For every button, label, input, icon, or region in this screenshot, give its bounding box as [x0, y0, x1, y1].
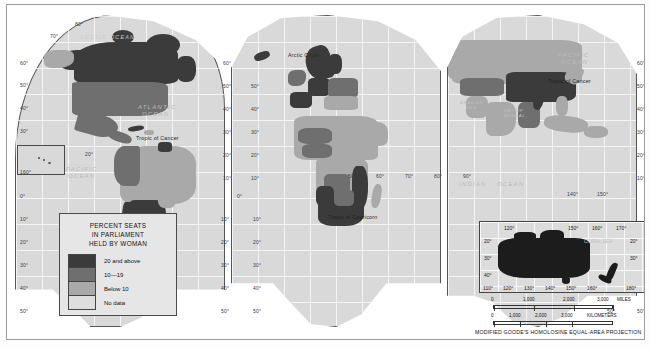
seam-left-40: 40°: [223, 106, 231, 112]
scale-tick-k3: [572, 321, 573, 327]
aus-lon-150b: 150°: [566, 285, 576, 291]
aus-lon-150: 150°: [568, 225, 578, 231]
region-colombia-peru: [114, 146, 140, 186]
region-guyana: [158, 142, 172, 152]
region-alaska: [44, 50, 74, 68]
region-horn-of-africa: [362, 122, 388, 146]
hawaii-island-1: [38, 157, 40, 159]
region-cuba: [128, 125, 145, 132]
seam-s-20: 20°: [221, 239, 229, 245]
scale-tick-k1: [520, 321, 521, 327]
scale-tick-k2: [546, 321, 547, 327]
legend-item-mid[interactable]: 10—19: [68, 268, 168, 282]
region-arnhem-land: [514, 232, 536, 242]
region-zimbabwe: [334, 190, 354, 206]
scale-km-2: 2,000: [535, 313, 547, 318]
label-pacific-ocean-west: PACIFIC: [66, 166, 98, 173]
grat-lon-50: 50°: [348, 173, 356, 179]
grat-left-40b: 40°: [20, 285, 28, 291]
grat-left-30: 30°: [20, 128, 28, 134]
label-tropic-of-cancer-west: Tropic of Cancer: [136, 135, 179, 141]
legend-entries: 20 and above 10—19 Below 10 No data: [68, 254, 168, 310]
grat-top-80: 80°: [75, 21, 83, 27]
region-madagascar: [370, 183, 383, 208]
label-coral-sea: CORAL SEA: [584, 238, 613, 244]
region-united-kingdom: [288, 70, 306, 86]
projection-note: MODIFIED GOODE'S HOMOLOSINE EQUAL-AREA P…: [475, 329, 641, 335]
region-central-asia: [460, 78, 504, 96]
label-atlantic-ocean-2: OCEAN: [142, 111, 169, 118]
label-tropic-of-capricorn: Tropic of Capricorn: [328, 214, 377, 220]
grat-left-40: 40°: [20, 105, 28, 111]
label-pacific-ocean-east-2: OCEAN: [561, 59, 588, 66]
legend-item-high[interactable]: 20 and above: [68, 254, 168, 268]
grat-lon-60: 60°: [376, 173, 384, 179]
region-namibia: [316, 186, 334, 206]
region-uruguay-paraguay: [158, 192, 176, 208]
aus-lon-160b: 160°: [587, 285, 597, 291]
seam-s-30: 30°: [221, 262, 229, 268]
region-finland: [328, 54, 342, 74]
seam-left-60: 60°: [223, 60, 231, 66]
grat-lon-70: 70°: [405, 173, 413, 179]
grat-pac-150: 150°: [597, 191, 608, 197]
grat-right-40: 40°: [637, 106, 644, 112]
region-spain: [290, 92, 312, 108]
seam-s-40: 40°: [221, 285, 229, 291]
region-west-russia: [448, 50, 488, 80]
aus-lat-20: 20°: [484, 238, 492, 244]
grat-left-0: 0°: [20, 193, 25, 199]
seam-right-10: 10°: [251, 175, 259, 181]
scale-bar-miles: [493, 305, 613, 309]
scale-tick-m0: [494, 305, 495, 311]
scale-km-unit: KILOMETERS: [587, 313, 617, 318]
scale-bar-kilometers: [493, 321, 613, 325]
legend-title-line3: HELD BY WOMAN: [68, 239, 168, 248]
scale-km-1: 1,000: [509, 313, 521, 318]
region-eastern-europe: [328, 78, 358, 98]
seam-s2-20: 20°: [253, 239, 261, 245]
aus-lat-30r: 30°: [630, 255, 638, 261]
map-canvas: ARCTIC OCEAN ATLANTIC OCEAN PACIFIC OCEA…: [7, 5, 644, 339]
legend-swatch-nodata: [68, 296, 96, 310]
aus-lon-170: 170°: [616, 225, 626, 231]
label-indian-ocean: INDIAN: [459, 181, 487, 188]
region-tasmania: [562, 278, 570, 284]
region-west-africa: [298, 128, 332, 144]
seam-left-20: 20°: [223, 152, 231, 158]
aus-lat-30: 30°: [484, 255, 492, 261]
hawaii-island-2: [43, 159, 45, 161]
aus-lon-140b: 140°: [545, 285, 555, 291]
legend-item-nodata[interactable]: No data: [68, 296, 168, 310]
legend-title: PERCENT SEATS IN PARLIAMENT HELD BY WOMA…: [68, 221, 168, 248]
label-indian-ocean-2: OCEAN: [497, 181, 524, 188]
seam-right-40: 40°: [251, 106, 259, 112]
label-pacific-ocean-east: PACIFIC: [558, 52, 590, 59]
scale-km-0: 0: [491, 313, 494, 318]
aus-lon-160: 160°: [592, 225, 602, 231]
legend-swatch-low: [68, 282, 96, 296]
seam-s2-40: 40°: [253, 285, 261, 291]
scale-miles-3: 3,000: [597, 297, 609, 302]
grat-lon-80: 80°: [434, 173, 442, 179]
legend-title-line1: PERCENT SEATS: [68, 221, 168, 230]
seam-s2-10: 10°: [253, 216, 261, 222]
grat-right-20: 20°: [637, 152, 644, 158]
aus-lon-180b: 180°: [626, 285, 636, 291]
legend-item-low[interactable]: Below 10: [68, 282, 168, 296]
grat-left-50: 50°: [20, 82, 28, 88]
grat-hawaii-160: 160°: [20, 169, 31, 175]
map-figure: ARCTIC OCEAN ATLANTIC OCEAN PACIFIC OCEA…: [0, 0, 651, 349]
grat-right-50: 50°: [637, 83, 644, 89]
scale-tick-m2: [574, 305, 575, 311]
seam-s2-50: 50°: [253, 308, 261, 314]
grat-right-30: 30°: [637, 129, 644, 135]
label-arctic-circle: Arctic Circle: [288, 52, 319, 58]
legend-label-low: Below 10: [104, 286, 129, 292]
scale-miles-1: 1,000: [523, 297, 535, 302]
grat-right-10: 10°: [637, 175, 644, 181]
region-arctic-isles: [146, 34, 180, 56]
region-cape-york: [540, 230, 564, 244]
region-iceland: [253, 50, 271, 63]
seam-s-10: 10°: [221, 216, 229, 222]
